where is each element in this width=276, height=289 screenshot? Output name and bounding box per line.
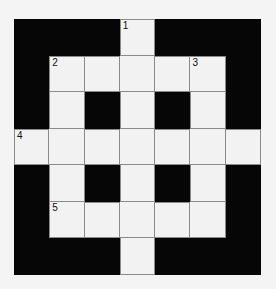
crossword-block: [226, 165, 261, 202]
crossword-block: [85, 92, 120, 129]
crossword-block: [226, 56, 261, 93]
crossword-cell[interactable]: [190, 92, 225, 129]
crossword-cell[interactable]: 3: [190, 56, 225, 93]
crossword-cell[interactable]: [49, 165, 84, 202]
crossword-cell[interactable]: [49, 92, 84, 129]
crossword-block: [14, 92, 49, 129]
crossword-cell[interactable]: [155, 202, 190, 239]
crossword-block: [226, 92, 261, 129]
crossword-block: [155, 238, 190, 275]
crossword-block: [190, 238, 225, 275]
crossword-cell[interactable]: [190, 129, 225, 166]
crossword-block: [85, 165, 120, 202]
crossword-cell[interactable]: [155, 56, 190, 93]
crossword-cell[interactable]: [120, 92, 155, 129]
crossword-cell[interactable]: [85, 202, 120, 239]
crossword-cell[interactable]: [85, 56, 120, 93]
crossword-block: [14, 165, 49, 202]
crossword-block: [14, 19, 49, 56]
crossword-block: [49, 19, 84, 56]
crossword-cell[interactable]: [120, 56, 155, 93]
crossword-cell[interactable]: 4: [14, 129, 49, 166]
clue-number: 3: [192, 58, 198, 68]
crossword-block: [14, 238, 49, 275]
crossword-block: [190, 19, 225, 56]
clue-number: 4: [17, 131, 23, 141]
crossword-block: [155, 19, 190, 56]
crossword-cell[interactable]: [120, 165, 155, 202]
crossword-block: [226, 202, 261, 239]
clue-number: 5: [52, 203, 58, 213]
crossword-cell[interactable]: [120, 202, 155, 239]
crossword-cell[interactable]: [120, 129, 155, 166]
clue-number: 2: [52, 58, 58, 68]
crossword-cell[interactable]: 1: [120, 19, 155, 56]
crossword-block: [85, 19, 120, 56]
crossword-block: [85, 238, 120, 275]
crossword-block: [226, 19, 261, 56]
crossword-cell[interactable]: [85, 129, 120, 166]
crossword-block: [49, 238, 84, 275]
crossword-block: [226, 238, 261, 275]
crossword-cell[interactable]: [120, 238, 155, 275]
crossword-cell[interactable]: [190, 165, 225, 202]
crossword-cell[interactable]: 5: [49, 202, 84, 239]
crossword-block: [155, 165, 190, 202]
crossword-cell[interactable]: [49, 129, 84, 166]
crossword-cell[interactable]: [226, 129, 261, 166]
clue-number: 1: [123, 21, 129, 31]
crossword-cell[interactable]: [190, 202, 225, 239]
crossword-block: [14, 56, 49, 93]
crossword-cell[interactable]: [155, 129, 190, 166]
crossword-cell[interactable]: 2: [49, 56, 84, 93]
crossword-grid: 12345: [14, 19, 261, 275]
crossword-block: [14, 202, 49, 239]
crossword-block: [155, 92, 190, 129]
